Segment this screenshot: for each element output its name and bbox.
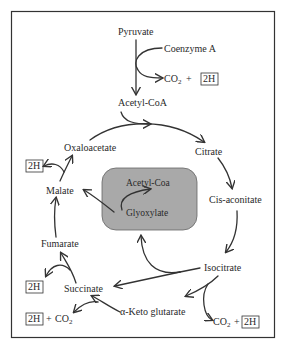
- label-acetyl-coa: Acetyl-CoA: [118, 97, 168, 108]
- label-2h-top: 2H: [203, 73, 215, 84]
- label-plus-right: +: [234, 316, 240, 327]
- label-fumarate: Fumarate: [41, 238, 79, 249]
- label-alpha-keto-glutarate: α-Keto glutarate: [120, 306, 186, 317]
- label-coenzyme-a: Coenzyme A: [164, 43, 217, 54]
- label-center-glyoxylate: Glyoxylate: [126, 208, 168, 218]
- label-citrate: Citrate: [195, 146, 223, 157]
- label-center-acetyl-coa: Acetyl-Coa: [126, 178, 171, 188]
- label-oxaloacetate: Oxaloacetate: [64, 142, 117, 153]
- label-plus-top: +: [186, 73, 192, 84]
- label-isocitrate: Isocitrate: [204, 262, 242, 273]
- label-cis-aconitate: Cis-aconitate: [209, 194, 262, 205]
- label-plus-alpha: +: [46, 313, 52, 324]
- label-2h-malate: 2H: [28, 160, 40, 171]
- label-succinate: Succinate: [64, 283, 103, 294]
- label-pyruvate: Pyruvate: [118, 26, 154, 37]
- label-malate: Malate: [46, 185, 74, 196]
- label-2h-succinate: 2H: [28, 281, 40, 292]
- label-2h-alpha: 2H: [28, 313, 40, 324]
- label-2h-right: 2H: [244, 316, 256, 327]
- glyoxylate-cycle-diagram: Pyruvate Coenzyme A CO2 + 2H Acetyl-CoA …: [0, 0, 281, 346]
